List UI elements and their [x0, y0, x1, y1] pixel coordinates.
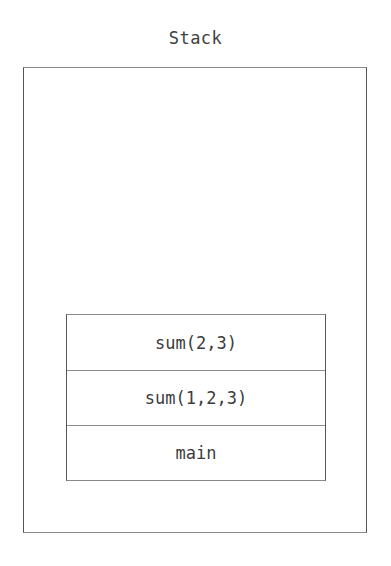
- stack-title: Stack: [0, 28, 391, 48]
- stack-frame-middle: sum(1,2,3): [67, 370, 325, 425]
- stack-frame-bottom: main: [67, 425, 325, 480]
- stack-frames: sum(2,3) sum(1,2,3) main: [66, 314, 326, 481]
- stack-frame-top: sum(2,3): [67, 315, 325, 370]
